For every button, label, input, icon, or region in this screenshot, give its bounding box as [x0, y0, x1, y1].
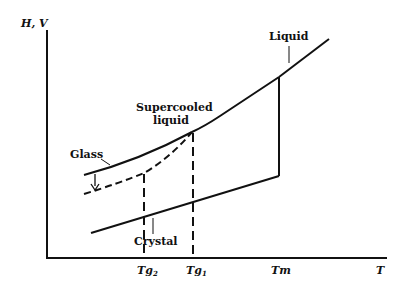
supercooled-label-line1: Supercooled — [136, 101, 213, 114]
glass-label: Glass — [70, 148, 103, 161]
tm-tick-label: Tm — [271, 264, 291, 277]
liquid-label: Liquid — [269, 30, 309, 43]
crystal-label: Crystal — [134, 235, 178, 248]
tg2-tick-label: Tg2 — [137, 264, 158, 278]
crystal-line — [91, 176, 279, 233]
x-axis-label: T — [376, 264, 385, 277]
tg1-tick-label: Tg1 — [186, 264, 207, 278]
y-axis-label: H, V — [20, 17, 49, 30]
supercooled-label-line2: liquid — [153, 114, 189, 127]
glass-transition-diagram: H, V T Liquid Supercooled liquid Glass C… — [0, 0, 404, 288]
liquid-line — [279, 39, 329, 77]
